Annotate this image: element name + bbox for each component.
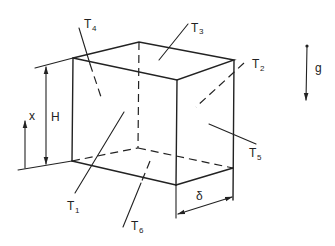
x-coordinate: x [25, 109, 35, 168]
leader-T2: T 2 [196, 57, 265, 107]
label-T1-sub: 1 [75, 206, 80, 215]
x-label: x [29, 109, 35, 123]
label-T2-main: T [252, 57, 260, 71]
leader-T4: T 4 [79, 17, 102, 100]
label-T5-sub: 5 [257, 153, 262, 162]
label-T3-main: T [191, 21, 199, 35]
leader-T3: T 3 [159, 21, 204, 60]
label-T1-main: T [67, 199, 75, 213]
label-T4-main: T [84, 17, 92, 31]
gravity-arrow: g [305, 44, 321, 100]
label-T6-sub: 6 [139, 226, 144, 235]
box-hidden-edges [72, 42, 233, 168]
label-T3-sub: 3 [199, 27, 204, 36]
height-dimension: H [46, 67, 60, 164]
label-T2-sub: 2 [260, 64, 265, 73]
leader-T1: T 1 [67, 112, 124, 215]
leader-T6: T 6 [123, 161, 150, 235]
leader-T5: T 5 [209, 124, 262, 162]
box-heat-transfer-diagram: H x δ T 4 T 3 T 2 T 5 T 1 T [0, 0, 335, 246]
height-label: H [51, 110, 60, 124]
label-T6-main: T [131, 219, 139, 233]
thickness-label: δ [196, 189, 203, 203]
label-T5-main: T [249, 146, 257, 160]
label-T4-sub: 4 [92, 24, 97, 33]
thickness-dimension: δ [176, 185, 232, 218]
gravity-label: g [315, 61, 322, 75]
box-solid-edges [72, 42, 234, 200]
